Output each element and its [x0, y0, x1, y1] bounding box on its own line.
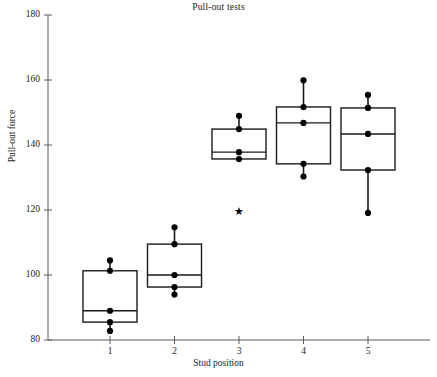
box-group	[341, 92, 395, 216]
box-group	[277, 77, 331, 179]
data-point	[107, 268, 113, 274]
data-point	[365, 92, 371, 98]
y-tick-label: 160	[6, 74, 40, 84]
x-tick-label: 5	[353, 346, 383, 356]
outlier-star-icon: ★	[234, 205, 244, 217]
data-point	[171, 284, 177, 290]
data-point	[171, 241, 177, 247]
data-point	[107, 319, 113, 325]
data-point	[107, 328, 113, 334]
data-point	[300, 104, 306, 110]
data-point	[300, 173, 306, 179]
x-tick-label: 3	[224, 346, 254, 356]
data-point	[171, 291, 177, 297]
data-point	[107, 308, 113, 314]
data-point	[300, 77, 306, 83]
data-point	[236, 149, 242, 155]
data-point	[171, 272, 177, 278]
box-rect	[148, 244, 202, 287]
x-tick-label: 1	[95, 346, 125, 356]
data-point	[107, 257, 113, 263]
data-point	[365, 167, 371, 173]
y-tick-label: 80	[6, 334, 40, 344]
box-group: ★	[212, 113, 266, 217]
y-tick-label: 120	[6, 204, 40, 214]
box-rect	[83, 271, 137, 322]
data-point	[365, 210, 371, 216]
data-point	[300, 161, 306, 167]
box-rect	[277, 107, 331, 164]
box-group	[148, 224, 202, 297]
box-rect	[341, 108, 395, 170]
data-point	[171, 224, 177, 230]
data-point	[300, 120, 306, 126]
y-tick-label: 180	[6, 9, 40, 19]
x-tick-label: 4	[289, 346, 319, 356]
y-tick-label: 140	[6, 139, 40, 149]
data-point	[236, 113, 242, 119]
y-tick-label: 100	[6, 269, 40, 279]
x-tick-label: 2	[160, 346, 190, 356]
boxplot-figure: Pull-out tests Pull-out force Stud posit…	[0, 0, 437, 377]
box-group	[83, 257, 137, 334]
data-point	[236, 126, 242, 132]
plot-area: ★	[0, 0, 437, 377]
data-point	[365, 105, 371, 111]
data-point	[236, 156, 242, 162]
data-point	[365, 131, 371, 137]
